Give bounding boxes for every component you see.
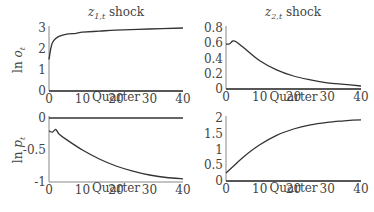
x-tick-label: 30 bbox=[320, 182, 335, 196]
x-tick-label: 30 bbox=[142, 183, 157, 197]
x-tick-label: 0 bbox=[45, 92, 53, 106]
x-tick-label: 0 bbox=[222, 182, 230, 196]
y-tick-label: 1 bbox=[215, 143, 223, 157]
x-tick-label: 10 bbox=[75, 183, 90, 197]
y-tick-label: 1.5 bbox=[204, 127, 223, 141]
x-axis-label: Quarter bbox=[269, 90, 317, 104]
response-line bbox=[49, 129, 183, 178]
x-axis-label: Quarter bbox=[92, 90, 140, 104]
y-tick-label: 0.6 bbox=[204, 36, 223, 50]
x-tick-label: 40 bbox=[175, 183, 190, 197]
x-tick-label: 10 bbox=[75, 92, 90, 106]
x-tick-label: 40 bbox=[175, 92, 190, 106]
response-line bbox=[226, 120, 361, 173]
response-line bbox=[49, 28, 183, 60]
x-tick-label: 0 bbox=[45, 183, 53, 197]
x-tick-label: 10 bbox=[252, 90, 267, 104]
y-tick-label: -0.5 bbox=[23, 143, 46, 157]
y-tick-label: 0.4 bbox=[204, 52, 223, 66]
panel-title-z2: z2,t shock bbox=[264, 5, 322, 21]
x-axis-label: Quarter bbox=[92, 181, 140, 195]
y-tick-label: 0.5 bbox=[204, 158, 223, 172]
x-tick-label: 40 bbox=[353, 182, 368, 196]
y-tick-label: 0.2 bbox=[204, 67, 223, 81]
x-tick-label: 10 bbox=[252, 182, 267, 196]
response-line bbox=[226, 41, 361, 86]
ylabel-ln-o: ln ot bbox=[11, 46, 27, 73]
panel-title-z1: z1,t shock bbox=[87, 5, 145, 21]
y-tick-label: 0.8 bbox=[204, 21, 223, 35]
y-tick-label: 0 bbox=[38, 111, 46, 125]
y-tick-label: 3 bbox=[38, 21, 46, 35]
x-tick-label: 40 bbox=[353, 90, 368, 104]
x-axis-label: Quarter bbox=[269, 181, 317, 195]
x-tick-label: 30 bbox=[142, 92, 157, 106]
impulse-response-figure: z1,t shock z2,t shock ln ot ln pt 012301… bbox=[0, 0, 374, 212]
y-tick-label: 1 bbox=[38, 63, 46, 77]
x-tick-label: 0 bbox=[222, 90, 230, 104]
x-tick-label: 30 bbox=[320, 90, 335, 104]
y-tick-label: 2 bbox=[38, 42, 46, 56]
y-tick-label: 2 bbox=[215, 111, 223, 125]
